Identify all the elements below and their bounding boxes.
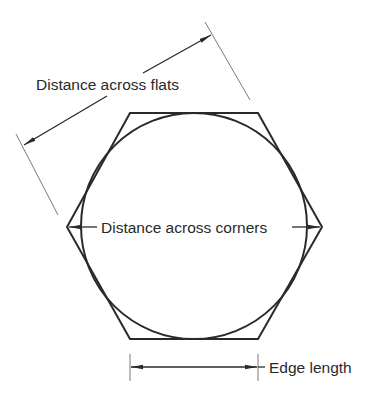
flats-extension-line-upper <box>205 22 250 100</box>
flats-dimension-arrow-upper <box>143 35 211 73</box>
hexagon-dimension-diagram: Distance across flats Distance across co… <box>0 0 386 393</box>
label-edge-length: Edge length <box>269 359 352 376</box>
label-distance-across-corners: Distance across corners <box>101 219 268 236</box>
flats-extension-line-lower <box>16 134 58 215</box>
diagram-svg: Distance across flats Distance across co… <box>0 0 386 393</box>
label-distance-across-flats: Distance across flats <box>36 76 179 93</box>
flats-dimension-arrow-lower <box>24 96 107 145</box>
